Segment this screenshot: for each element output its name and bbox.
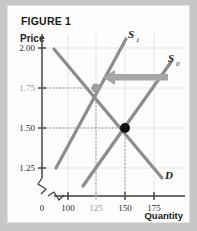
x-tick-label: 125 (89, 203, 103, 213)
equilibrium-point-new (91, 83, 100, 92)
supply-curve-s0-subscript: 0 (176, 60, 180, 68)
y-tick-label: 2.00 (19, 43, 35, 53)
demand-curve (54, 49, 162, 178)
supply-curve-s1-label: S (128, 28, 134, 40)
x-tick-label: 175 (147, 203, 161, 213)
y-tick-label: 1.50 (19, 123, 35, 133)
x-tick-label: 100 (61, 203, 75, 213)
y-tick-label: 1.25 (19, 163, 35, 173)
supply-shift-arrow (103, 70, 168, 85)
gridlines (42, 34, 185, 192)
y-tick-label: 1.75 (19, 83, 35, 93)
supply-demand-chart: 2.00 1.75 1.50 1.25 0 100 125 150 175 (8, 6, 189, 222)
figure-container: FIGURE 1 Price Quantity (0, 0, 197, 231)
x-tick-label: 150 (118, 203, 132, 213)
y-axis (38, 34, 46, 194)
supply-curve-s0-label: S (168, 52, 174, 64)
equilibrium-point-original (120, 123, 130, 133)
x-axis (48, 192, 185, 200)
demand-curve-label: D (164, 169, 173, 181)
x-tick-label: 0 (40, 203, 45, 213)
supply-curve-s1 (56, 39, 126, 168)
figure-panel: FIGURE 1 Price Quantity (8, 6, 189, 222)
supply-curve-s1-subscript: 1 (136, 36, 140, 44)
